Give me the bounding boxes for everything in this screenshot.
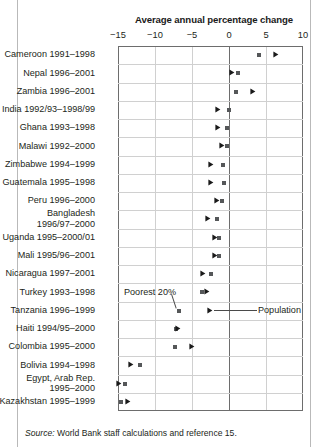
row-separator: [118, 283, 303, 284]
row-separator: [118, 174, 303, 175]
marker-poorest-20: [227, 108, 231, 112]
marker-poorest-20: [173, 345, 177, 349]
row-label: Colombia 1995–2000: [0, 341, 95, 352]
marker-poorest-20: [222, 181, 226, 185]
row-label: Nicaragua 1997–2001: [0, 268, 95, 279]
marker-poorest-20: [257, 53, 261, 57]
row-label: Mali 1995/96–2001: [0, 250, 95, 261]
x-tick-label: −15: [110, 30, 126, 40]
marker-poorest-20: [234, 90, 238, 94]
marker-poorest-20: [177, 309, 181, 313]
marker-poorest-20: [221, 163, 225, 167]
marker-poorest-20: [123, 382, 127, 386]
row-label: Peru 1996–2000: [0, 195, 95, 206]
marker-poorest-20: [220, 199, 224, 203]
marker-population: [208, 161, 213, 167]
annotation-leader-line-population: [214, 310, 257, 311]
marker-population: [273, 52, 278, 58]
marker-population: [128, 362, 133, 368]
marker-population: [125, 398, 130, 404]
marker-population: [207, 307, 212, 313]
annotation-poorest-20-label: Poorest 20%: [124, 287, 176, 297]
row-separator: [118, 210, 303, 211]
marker-population: [212, 252, 217, 258]
row-label: Haiti 1994/95–2000: [0, 323, 95, 334]
marker-population: [212, 234, 217, 240]
row-label: Bolivia 1994–1998: [0, 360, 95, 371]
marker-poorest-20: [225, 126, 229, 130]
row-label: Cameroon 1991–1998: [0, 49, 95, 60]
row-label: Ghana 1993–1998: [0, 122, 95, 133]
row-separator: [118, 265, 303, 266]
x-tick-label: 0: [226, 30, 231, 40]
marker-poorest-20: [209, 272, 213, 276]
row-separator: [118, 137, 303, 138]
marker-population: [206, 216, 211, 222]
x-tick-label: −5: [187, 30, 198, 40]
marker-population: [215, 198, 220, 204]
marker-poorest-20: [236, 71, 240, 75]
marker-population: [175, 325, 180, 331]
row-separator: [118, 101, 303, 102]
row-separator: [118, 338, 303, 339]
x-tick-label: −10: [147, 30, 163, 40]
annotation-population-label: Population: [258, 305, 301, 315]
x-axis-tick-labels: −15−10−50510: [0, 30, 323, 44]
row-separator: [118, 375, 303, 376]
row-label: Uganda 1995–2000/01: [0, 232, 95, 243]
row-separator: [118, 156, 303, 157]
marker-poorest-20: [215, 217, 219, 221]
chart-figure: Average annual percentage change −15−10−…: [0, 0, 323, 447]
marker-poorest-20: [138, 363, 142, 367]
row-separator: [118, 64, 303, 65]
row-label: Zambia 1996–2001: [0, 86, 95, 97]
row-label: Kazakhstan 1995–1999: [0, 396, 95, 407]
chart-title: Average annual percentage change: [118, 14, 310, 25]
row-label: India 1992/93–1998/99: [0, 104, 95, 115]
source-label: Source:: [25, 428, 55, 438]
marker-population: [215, 106, 220, 112]
chart-rows: Cameroon 1991–1998Nepal 1996–2001Zambia …: [0, 46, 323, 411]
marker-population: [189, 344, 194, 350]
row-separator: [118, 229, 303, 230]
row-label: Malawi 1992–2000: [0, 141, 95, 152]
marker-population: [200, 271, 205, 277]
row-separator: [118, 83, 303, 84]
row-label: Bangladesh 1996/97–2000: [0, 208, 95, 229]
source-note: Source: World Bank staff calculations an…: [25, 428, 237, 438]
marker-population: [204, 289, 209, 295]
source-text: World Bank staff calculations and refere…: [55, 428, 237, 438]
marker-population: [250, 88, 255, 94]
marker-population: [209, 179, 214, 185]
row-separator: [118, 247, 303, 248]
marker-population: [215, 125, 220, 131]
row-separator: [118, 356, 303, 357]
row-label: Tanzania 1996–1999: [0, 305, 95, 316]
row-separator: [118, 192, 303, 193]
row-separator: [118, 393, 303, 394]
row-separator: [118, 119, 303, 120]
row-label: Egypt, Arab Rep. 1995–2000: [0, 373, 95, 394]
marker-population: [117, 380, 122, 386]
marker-population: [229, 70, 234, 76]
x-tick-label: 10: [298, 30, 308, 40]
marker-poorest-20: [119, 400, 123, 404]
row-label: Turkey 1993–1998: [0, 287, 95, 298]
marker-population: [220, 143, 225, 149]
row-separator: [118, 302, 303, 303]
marker-poorest-20: [225, 144, 229, 148]
row-separator: [118, 320, 303, 321]
row-label: Guatemala 1995–1998: [0, 177, 95, 188]
row-label: Nepal 1996–2001: [0, 68, 95, 79]
x-tick-label: 5: [263, 30, 268, 40]
row-label: Zimbabwe 1994–1999: [0, 159, 95, 170]
